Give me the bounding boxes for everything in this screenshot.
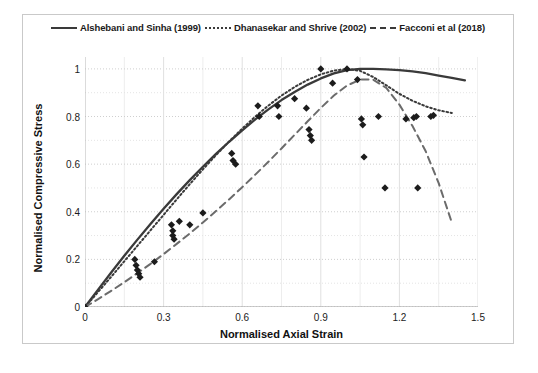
- legend-label-dhanasekar: Dhanasekar and Shrive (2002): [234, 22, 366, 33]
- legend-swatch-solid-icon: [51, 23, 77, 31]
- plot-area: [85, 57, 478, 307]
- y-tick-label: 0.6: [52, 159, 80, 170]
- x-tick-label: 0.3: [144, 312, 184, 323]
- y-tick-label: 0: [52, 302, 80, 313]
- y-axis-title: Normalised Compressive Stress: [32, 88, 44, 288]
- scatter-marker: [317, 65, 324, 72]
- scatter-points: [85, 65, 437, 307]
- scatter-marker: [375, 113, 382, 120]
- chart-legend: Alshebani and Sinha (1999) Dhanasekar an…: [24, 16, 512, 38]
- y-tick-label: 0.2: [52, 254, 80, 265]
- scatter-marker: [168, 221, 175, 228]
- x-axis-title: Normalised Axial Strain: [85, 328, 478, 340]
- y-tick-label: 0.4: [52, 206, 80, 217]
- x-tick-label: 1.2: [379, 312, 419, 323]
- figure-container: Alshebani and Sinha (1999) Dhanasekar an…: [0, 0, 538, 373]
- legend-swatch-dotted-icon: [205, 23, 231, 31]
- scatter-marker: [228, 150, 235, 157]
- legend-item-alshebani: Alshebani and Sinha (1999): [51, 22, 201, 33]
- scatter-marker: [381, 184, 388, 191]
- scatter-marker: [186, 221, 193, 228]
- scatter-marker: [199, 209, 206, 216]
- legend-item-facconi: Facconi et al (2018): [370, 22, 485, 33]
- scatter-marker: [414, 184, 421, 191]
- x-tick-label: 0.9: [301, 312, 341, 323]
- x-tick-label: 0: [65, 312, 105, 323]
- y-axis-ticks: 00.20.40.60.81: [48, 57, 80, 307]
- x-tick-label: 0.6: [222, 312, 262, 323]
- scatter-marker: [131, 256, 138, 263]
- legend-swatch-dashed-icon: [370, 23, 396, 31]
- scatter-marker: [305, 126, 312, 133]
- legend-item-dhanasekar: Dhanasekar and Shrive (2002): [205, 22, 366, 33]
- y-tick-label: 1: [52, 63, 80, 74]
- x-axis-ticks: 00.30.60.91.21.5: [85, 312, 478, 328]
- y-tick-label: 0.8: [52, 111, 80, 122]
- scatter-marker: [303, 105, 310, 112]
- scatter-marker: [291, 95, 298, 102]
- legend-label-facconi: Facconi et al (2018): [399, 22, 485, 33]
- scatter-marker: [360, 153, 367, 160]
- scatter-marker: [329, 80, 336, 87]
- legend-label-alshebani: Alshebani and Sinha (1999): [80, 22, 201, 33]
- x-tick-label: 1.5: [458, 312, 498, 323]
- plot-svg: [85, 57, 478, 307]
- scatter-marker: [254, 102, 261, 109]
- scatter-marker: [176, 218, 183, 225]
